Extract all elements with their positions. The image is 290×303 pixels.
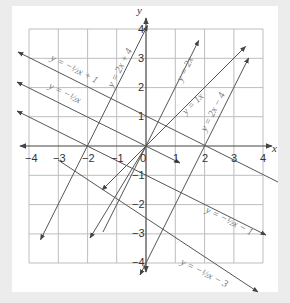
svg-text:1: 1 <box>138 110 144 122</box>
svg-text:3: 3 <box>138 52 144 64</box>
line-half-0 <box>17 82 180 163</box>
svg-text:3: 3 <box>231 152 237 164</box>
svg-text:−3: −3 <box>132 227 145 239</box>
svg-text:−2: −2 <box>132 198 145 210</box>
svg-text:4: 4 <box>138 23 144 35</box>
svg-text:1: 1 <box>173 152 179 164</box>
svg-text:0: 0 <box>140 152 146 164</box>
svg-text:4: 4 <box>260 152 266 164</box>
svg-text:2: 2 <box>202 152 208 164</box>
svg-text:−1: −1 <box>132 169 145 181</box>
svg-text:y = 2x + 4: y = 2x + 4 <box>105 46 134 90</box>
svg-text:y = −½x − 1: y = −½x − 1 <box>203 204 255 238</box>
line-2x-minus-4 <box>140 58 249 275</box>
svg-text:x: x <box>271 142 277 154</box>
svg-text:−3: −3 <box>53 152 66 164</box>
svg-text:−4: −4 <box>132 256 145 268</box>
svg-text:−4: −4 <box>25 152 38 164</box>
svg-text:−2: −2 <box>82 152 95 164</box>
svg-text:y = 2x: y = 2x <box>174 55 196 84</box>
x-tick-labels: −4 −3 −2 −1 0 1 2 3 4 x <box>25 142 277 164</box>
svg-text:y: y <box>136 4 142 16</box>
svg-text:2: 2 <box>138 81 144 93</box>
svg-text:y = −½x: y = −½x <box>46 80 83 106</box>
coordinate-plane: −4 −3 −2 −1 0 1 2 3 4 x 4 3 2 1 −1 −2 −3… <box>0 0 290 303</box>
svg-text:y = 1x: y = 1x <box>179 90 206 117</box>
svg-text:−1: −1 <box>111 152 124 164</box>
